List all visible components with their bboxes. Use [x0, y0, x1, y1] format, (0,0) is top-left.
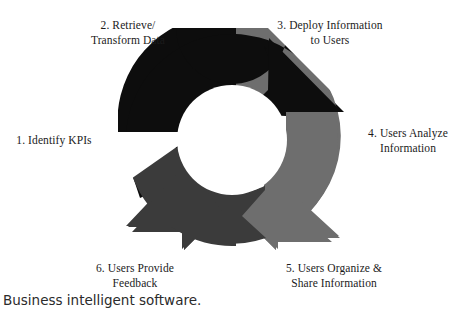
- step-label-6: 6. Users Provide Feedback: [70, 261, 200, 290]
- figure-caption: Business intelligent software.: [3, 291, 443, 309]
- figure-container: 1. Identify KPIs 2. Retrieve/ Transform …: [0, 0, 461, 317]
- step-label-4: 4. Users Analyze Information: [356, 126, 460, 155]
- center-hole: [177, 85, 287, 195]
- cycle-arrows-graphic: [118, 28, 346, 250]
- step-label-1: 1. Identify KPIs: [2, 133, 106, 148]
- step-label-2: 2. Retrieve/ Transform Data: [62, 18, 194, 47]
- step-label-3: 3. Deploy Information to Users: [256, 18, 404, 47]
- step-label-5: 5. Users Organize & Share Information: [258, 261, 410, 290]
